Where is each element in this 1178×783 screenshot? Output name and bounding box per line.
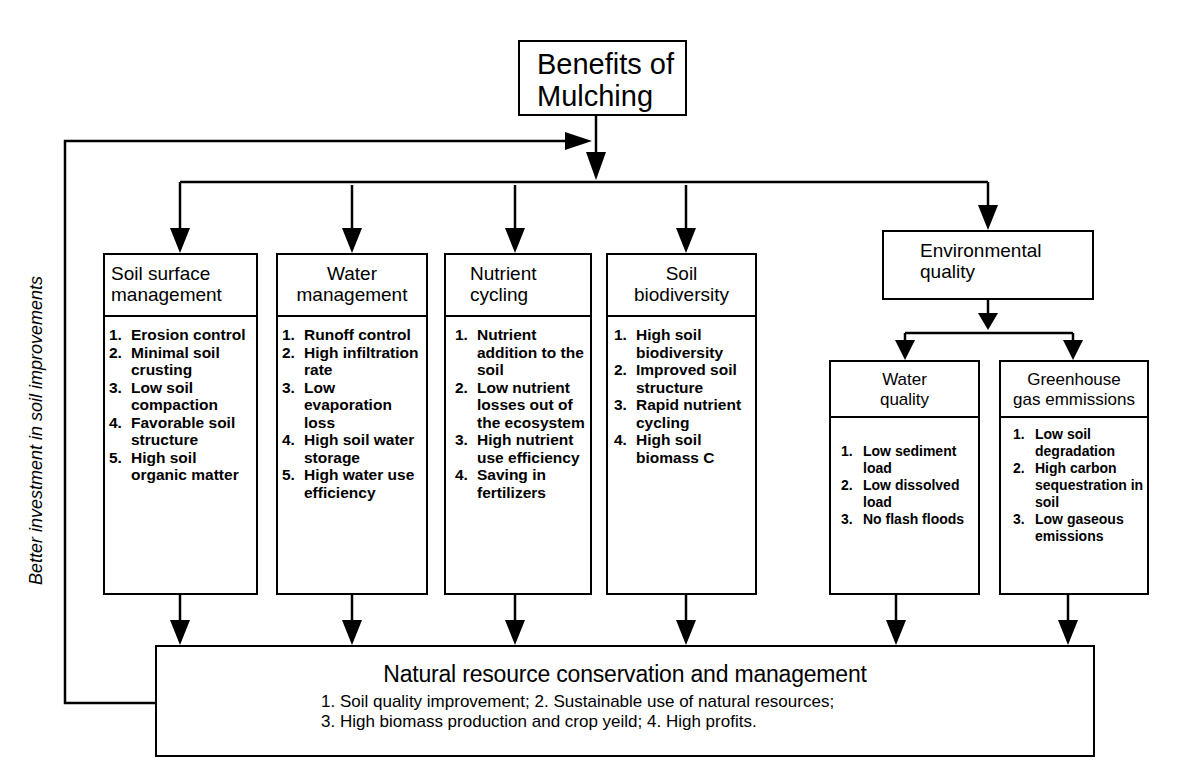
outcome-line-2: 3. High biomass production and crop yeil… [157, 712, 1093, 732]
item-text: High soil organic matter [131, 449, 253, 484]
item-number: 1. [282, 326, 304, 344]
node-title-line2: gas emmissions [1001, 390, 1147, 410]
list-item: 3.Rapid nutrient cycling [614, 396, 752, 431]
item-text: Improved soil structure [636, 361, 752, 396]
item-text: High carbon sequestration in soil [1035, 460, 1144, 511]
item-text: Saving in fertilizers [477, 466, 587, 501]
item-number: 3. [614, 396, 636, 431]
node-water-management: Water management 1.Runoff control 2.High… [276, 253, 428, 595]
item-number: 2. [282, 344, 304, 379]
item-text: Low sediment load [863, 443, 975, 477]
node-title-line2: biodiversity [614, 284, 749, 305]
item-text: Nutrient addition to the soil [477, 326, 587, 379]
item-text: Erosion control [131, 326, 253, 344]
item-number: 2. [109, 344, 131, 379]
node-header: Greenhouse gas emmissions [1001, 362, 1147, 418]
node-benefit-list: 1.High soil biodiversity 2.Improved soil… [608, 317, 755, 466]
list-item: 2.Low nutrient losses out of the ecosyst… [455, 379, 587, 432]
list-item: 2.Low dissolved load [841, 477, 975, 511]
item-number: 4. [109, 414, 131, 449]
node-nutrient-cycling: Nutrient cycling 1.Nutrient addition to … [444, 253, 592, 595]
node-benefit-list: 1.Low sediment load 2.Low dissolved load… [831, 418, 978, 593]
node-greenhouse-gas-emissions: Greenhouse gas emmissions 1.Low soil deg… [999, 360, 1149, 595]
item-text: High soil biodiversity [636, 326, 752, 361]
item-text: No flash floods [863, 511, 975, 528]
item-number: 4. [282, 431, 304, 466]
item-number: 3. [841, 511, 863, 528]
item-number: 5. [282, 466, 304, 501]
node-title-line1: Soil surface [111, 263, 250, 284]
root-node-benefits-of-mulching: Benefits of Mulching [518, 40, 687, 116]
list-item: 1.Nutrient addition to the soil [455, 326, 587, 379]
item-number: 3. [455, 431, 477, 466]
item-text: Low nutrient losses out of the ecosystem [477, 379, 587, 432]
item-text: High infiltration rate [304, 344, 423, 379]
item-number: 1. [841, 443, 863, 477]
list-item: 3.No flash floods [841, 511, 975, 528]
list-item: 4.Saving in fertilizers [455, 466, 587, 501]
list-item: 2.Minimal soil crusting [109, 344, 253, 379]
node-benefit-list: 1.Low soil degradation 2.High carbon seq… [1001, 418, 1147, 593]
item-text: Favorable soil structure [131, 414, 253, 449]
list-item: 5.High water use efficiency [282, 466, 423, 501]
item-number: 1. [1013, 426, 1035, 460]
node-title-line1: Nutrient [470, 263, 584, 284]
node-title-line2: management [284, 284, 420, 305]
item-text: Low soil degradation [1035, 426, 1144, 460]
item-text: Low gaseous emissions [1035, 511, 1144, 545]
item-number: 4. [455, 466, 477, 501]
node-title-line1: Environmental [920, 240, 1092, 261]
node-title-line1: Soil [614, 263, 749, 284]
node-header: Soil biodiversity [608, 255, 755, 317]
node-header: Soil surface management [105, 255, 256, 317]
list-item: 1.Low soil degradation [1013, 426, 1144, 460]
outcome-title: Natural resource conservation and manage… [157, 661, 1093, 688]
item-number: 3. [1013, 511, 1035, 545]
node-title-line2: quality [920, 261, 1092, 282]
list-item: 4.High soil water storage [282, 431, 423, 466]
item-number: 2. [614, 361, 636, 396]
node-header: Water management [278, 255, 426, 317]
node-soil-surface-management: Soil surface management 1.Erosion contro… [103, 253, 258, 595]
node-header: Water quality [831, 362, 978, 418]
item-number: 4. [614, 431, 636, 466]
item-number: 1. [614, 326, 636, 361]
list-item: 1.High soil biodiversity [614, 326, 752, 361]
node-environmental-quality: Environmental quality [882, 230, 1094, 300]
node-title-line1: Greenhouse [1001, 370, 1147, 390]
item-number: 2. [455, 379, 477, 432]
list-item: 2.High infiltration rate [282, 344, 423, 379]
node-water-quality: Water quality 1.Low sediment load 2.Low … [829, 360, 980, 595]
list-item: 5.High soil organic matter [109, 449, 253, 484]
item-text: Low evaporation loss [304, 379, 423, 432]
node-benefit-list: 1.Runoff control 2.High infiltration rat… [278, 317, 426, 501]
item-number: 3. [282, 379, 304, 432]
item-text: High soil water storage [304, 431, 423, 466]
list-item: 4.Favorable soil structure [109, 414, 253, 449]
list-item: 2.High carbon sequestration in soil [1013, 460, 1144, 511]
root-title-line1: Benefits of [537, 48, 685, 80]
item-text: Low soil compaction [131, 379, 253, 414]
node-title-line1: Water [284, 263, 420, 284]
outcome-line-1: 1. Soil quality improvement; 2. Sustaina… [157, 692, 1093, 712]
node-title-line2: cycling [470, 284, 584, 305]
item-text: High water use efficiency [304, 466, 423, 501]
list-item: 3.Low soil compaction [109, 379, 253, 414]
feedback-label: Better investment in soil improvements [26, 276, 47, 585]
list-item: 3.Low gaseous emissions [1013, 511, 1144, 545]
node-benefit-list: 1.Erosion control 2.Minimal soil crustin… [105, 317, 256, 484]
node-title-line2: quality [837, 390, 972, 410]
list-item: 3.High nutrient use efficiency [455, 431, 587, 466]
node-benefit-list: 1.Nutrient addition to the soil 2.Low nu… [446, 317, 590, 501]
list-item: 3.Low evaporation loss [282, 379, 423, 432]
list-item: 1.Erosion control [109, 326, 253, 344]
item-text: High soil biomass C [636, 431, 752, 466]
item-text: Minimal soil crusting [131, 344, 253, 379]
item-number: 2. [841, 477, 863, 511]
list-item: 4.High soil biomass C [614, 431, 752, 466]
item-text: High nutrient use efficiency [477, 431, 587, 466]
list-item: 1.Low sediment load [841, 443, 975, 477]
item-number: 2. [1013, 460, 1035, 511]
item-number: 3. [109, 379, 131, 414]
item-number: 1. [109, 326, 131, 344]
